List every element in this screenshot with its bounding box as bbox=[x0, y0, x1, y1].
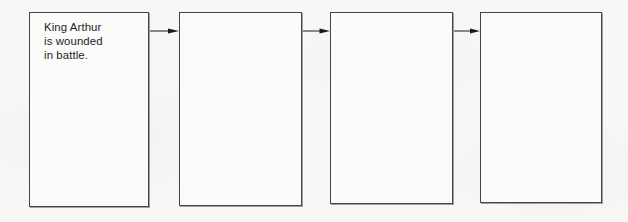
chart-box-1[interactable]: King Arthur is wounded in battle. bbox=[29, 12, 149, 207]
chart-box-3[interactable] bbox=[330, 12, 453, 204]
arrow-right-icon-3 bbox=[454, 24, 480, 38]
flow-chart-canvas: King Arthur is wounded in battle. bbox=[0, 0, 628, 222]
chart-box-1-text: King Arthur is wounded in battle. bbox=[44, 20, 142, 63]
arrow-right-icon-1 bbox=[150, 24, 179, 38]
arrow-right-icon-2 bbox=[303, 24, 330, 38]
chart-box-2[interactable] bbox=[179, 12, 302, 206]
chart-box-4[interactable] bbox=[480, 12, 602, 203]
